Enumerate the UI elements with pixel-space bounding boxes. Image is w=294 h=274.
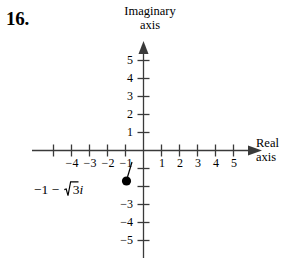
x-tick-label--4: −4 <box>62 157 82 169</box>
x-tick-label--1: −1 <box>116 157 136 169</box>
x-tick-label--3: −3 <box>80 157 100 169</box>
x-tick-label-2: 2 <box>170 157 190 169</box>
y-tick-label-2: 2 <box>110 108 133 120</box>
y-tick-label-3: 3 <box>110 90 133 102</box>
x-tick-label-1: 1 <box>152 157 172 169</box>
axis-lines <box>32 41 262 258</box>
figure-canvas: 16. Imaginary axis Real axis <box>0 0 294 274</box>
y-tick-label-1: 1 <box>110 126 133 138</box>
x-tick-label-5: 5 <box>224 157 244 169</box>
point-annotation-suffix: i <box>79 182 83 197</box>
y-tick-label--5: −5 <box>108 234 133 246</box>
y-tick-label-4: 4 <box>110 72 133 84</box>
square-root-icon <box>63 181 73 198</box>
complex-plane-plot <box>0 0 294 274</box>
point-annotation-prefix: −1 − <box>34 182 63 197</box>
real-axis-arrowhead <box>248 146 262 156</box>
y-tick-label--3: −3 <box>108 198 133 210</box>
plotted-point <box>122 176 131 185</box>
x-tick-label-3: 3 <box>188 157 208 169</box>
x-tick-label--2: −2 <box>98 157 118 169</box>
y-tick-label--4: −4 <box>108 216 133 228</box>
x-tick-label-4: 4 <box>206 157 226 169</box>
imaginary-axis-arrowhead <box>139 41 149 54</box>
y-tick-label-5: 5 <box>110 54 133 66</box>
point-annotation-label: −1 − 3i <box>34 181 83 198</box>
